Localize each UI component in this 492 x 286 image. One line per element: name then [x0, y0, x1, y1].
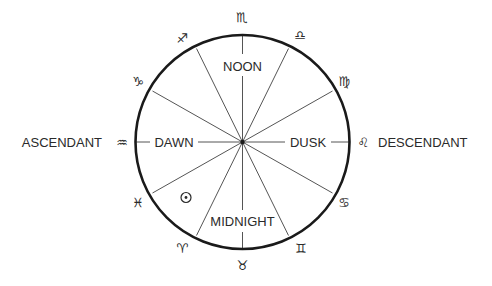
dusk-label: DUSK [290, 135, 326, 150]
libra-icon: ♎ [294, 28, 306, 43]
taurus-icon: ♉ [237, 258, 249, 273]
sun-icon [181, 193, 191, 203]
center-dot [240, 140, 244, 144]
pisces-icon: ♓ [132, 195, 144, 210]
leo-icon: ♌ [357, 135, 369, 150]
zodiac-day-cycle-diagram: NOON DAWN DUSK MIDNIGHT ASCENDANT DESCEN… [0, 0, 492, 286]
aries-icon: ♈ [176, 241, 188, 256]
cancer-icon: ♋ [338, 195, 350, 210]
scorpio-icon: ♏ [236, 10, 248, 25]
capricorn-icon: ♑ [132, 74, 144, 89]
aquarius-icon: ♒ [116, 135, 128, 150]
sagittarius-icon: ♐ [176, 31, 188, 46]
midnight-label: MIDNIGHT [210, 214, 274, 229]
descendant-label: DESCENDANT [378, 135, 468, 150]
noon-label: NOON [223, 59, 262, 74]
virgo-icon: ♍ [338, 74, 350, 89]
ascendant-label: ASCENDANT [22, 135, 102, 150]
gemini-icon: ♊ [295, 241, 307, 256]
dawn-label: DAWN [154, 135, 193, 150]
